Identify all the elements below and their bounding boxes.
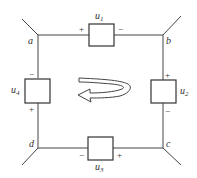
u2-plus-sign: + bbox=[165, 70, 170, 80]
u2-minus-sign: − bbox=[165, 106, 170, 116]
stub-d bbox=[22, 148, 38, 165]
element-u4-box bbox=[25, 79, 50, 103]
label-u1: u1 bbox=[95, 10, 104, 23]
node-b-label: b bbox=[166, 35, 171, 46]
stub-b bbox=[163, 16, 181, 35]
u1-minus-sign: − bbox=[118, 24, 123, 34]
node-c-label: c bbox=[166, 138, 171, 149]
u4-plus-sign: + bbox=[29, 104, 34, 114]
circuit-diagram: u1 u2 u3 u4 + − + − + − − + a b c d bbox=[0, 0, 197, 178]
u4-minus-sign: − bbox=[29, 69, 34, 79]
u1-plus-sign: + bbox=[79, 24, 84, 34]
label-u3: u3 bbox=[95, 161, 104, 174]
loop-direction-arrow-icon bbox=[78, 78, 130, 102]
element-u1-box bbox=[89, 24, 114, 46]
u3-minus-sign: − bbox=[79, 150, 84, 160]
element-u3-box bbox=[88, 137, 113, 160]
label-u2: u2 bbox=[180, 85, 189, 98]
node-d-label: d bbox=[29, 138, 35, 149]
element-u2-box bbox=[151, 80, 176, 103]
node-a-label: a bbox=[28, 35, 33, 46]
stub-c bbox=[163, 148, 181, 165]
stub-a bbox=[22, 19, 38, 35]
u3-plus-sign: + bbox=[117, 150, 122, 160]
label-u4: u4 bbox=[11, 84, 20, 97]
